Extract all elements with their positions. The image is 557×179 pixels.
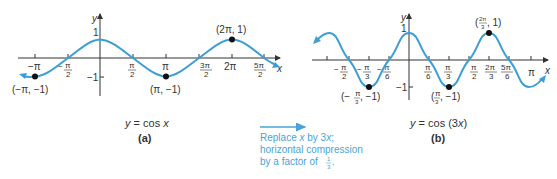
x-tick-pi: π [162,61,169,72]
point-label-neg-pi: (−π, −1) [12,84,48,95]
equation-a: y = cos x [124,117,169,129]
svg-text:2: 2 [130,70,135,79]
point-label-2pi: (2π, 1) [216,24,246,35]
svg-text:3π: 3π [200,61,210,70]
svg-text:2: 2 [66,70,71,79]
point-pi [163,74,169,80]
transformation-note: Replace x by 3x; horizontal compression … [260,127,363,170]
transform-line-1: Replace x by 3x; [260,132,334,143]
transform-line-2: horizontal compression [260,144,363,155]
x-tick-pi-over-3: π 3 [444,63,452,81]
svg-text:3: 3 [481,24,485,30]
x-tick-pi-over-6: π 6 [424,63,432,81]
point-label-2pi-over-3: ( 2π 3 , 1) [475,16,501,30]
svg-text:3: 3 [446,72,451,81]
figure-canvas: y x 1 −1 −π − π 2 π 2 π [0,0,557,179]
y-axis-label: y [91,13,98,24]
svg-text:2π: 2π [479,16,486,22]
x-tick-3pi-over-2: 3π 2 [200,61,212,79]
point-neg-pi-over-3 [366,84,372,90]
curve-arrow-left-icon [19,73,27,79]
fraction-denominator: 3 [327,164,331,170]
x-tick-pi-over-2: π 2 [128,61,136,79]
point-neg-pi [32,74,38,80]
x-tick-neg-pi: −π [28,61,41,72]
y-axis-label: y [400,12,407,23]
svg-text:6: 6 [385,72,390,81]
svg-text:3: 3 [355,99,359,105]
transform-line-3: by a factor of [260,156,318,167]
panel-a-graph: y x 1 −1 −π − π 2 π 2 π [12,13,283,144]
caption-b: (b) [431,132,445,144]
x-tick-neg-pi-over-2: − π 2 [334,63,348,81]
y-tick-neg1: −1 [87,72,99,83]
x-tick-pi-over-2: π 2 [470,63,478,81]
svg-text:6: 6 [505,72,510,81]
panel-b-graph: y x 1 −1 − π 2 − π 3 [312,12,551,144]
svg-text:π: π [65,61,71,70]
svg-text:2π: 2π [485,63,495,72]
x-axis-label: x [544,65,551,76]
equation-b: y = cos (3x) [409,117,467,129]
svg-text:π: π [341,63,347,72]
y-tick-1: 1 [93,27,99,38]
svg-text:π: π [129,61,135,70]
svg-text:3: 3 [489,72,494,81]
x-tick-pi: π [528,67,535,78]
svg-text:2: 2 [204,70,209,79]
svg-text:6: 6 [426,72,431,81]
point-label-pi-over-3: ( π 3 , −1) [431,89,460,105]
svg-text:3: 3 [365,72,370,81]
svg-text:2: 2 [258,70,263,79]
svg-text:5π: 5π [501,63,511,72]
svg-text:π: π [425,63,431,72]
fraction-numerator: 1 [327,156,331,162]
x-tick-2pi: 2π [224,61,237,72]
transform-period: . [332,156,335,167]
svg-text:π: π [445,63,451,72]
point-2pi [229,37,235,43]
svg-text:3: 3 [435,99,439,105]
x-tick-5pi-over-6: 5π 6 [501,63,513,81]
x-tick-2pi-over-3: 2π 3 [485,63,497,81]
point-2pi-over-3 [486,30,492,36]
svg-text:−: − [334,65,339,74]
svg-text:, −1): , −1) [440,91,460,102]
y-tick-neg1: −1 [396,82,408,93]
svg-text:(−: (− [341,91,350,102]
svg-text:5π: 5π [254,61,264,70]
svg-text:, −1): , −1) [360,91,380,102]
point-label-pi: (π, −1) [150,84,181,95]
point-label-neg-pi-over-3: (− π 3 , −1) [341,89,380,105]
svg-text:, 1): , 1) [487,17,501,28]
x-tick-5pi-over-2: 5π 2 [254,61,266,79]
caption-a: (a) [138,132,152,144]
point-pi-over-3 [446,84,452,90]
svg-text:π: π [471,63,477,72]
svg-text:π: π [364,63,370,72]
svg-text:2: 2 [342,72,347,81]
y-tick-1: 1 [401,23,407,34]
svg-text:2: 2 [472,72,477,81]
